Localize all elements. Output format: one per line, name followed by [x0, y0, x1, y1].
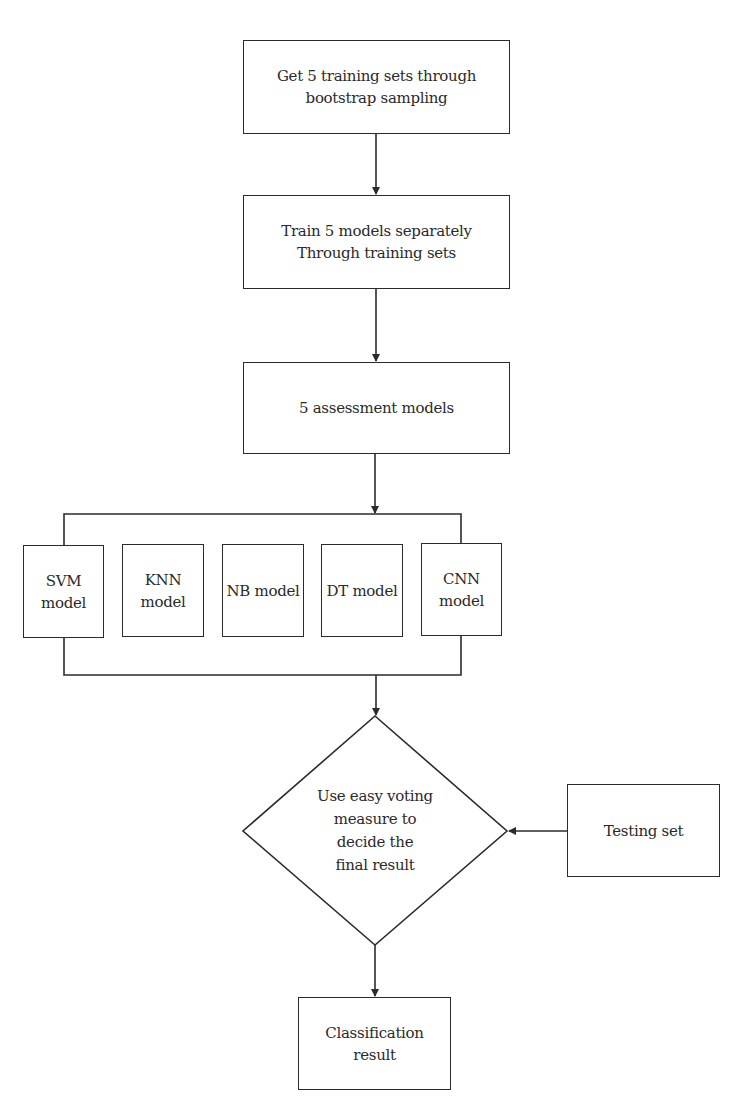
voting-line-3: decide the: [337, 831, 414, 854]
train-models-box: Train 5 models separately Through traini…: [243, 195, 510, 289]
assessment-label: 5 assessment models: [299, 397, 454, 419]
svm-model-label: SVM model: [24, 570, 103, 614]
cnn-model-box: CNN model: [421, 543, 502, 636]
bottom-bus-line: [64, 636, 461, 675]
nb-model-label: NB model: [226, 580, 299, 602]
bootstrap-line-2: bootstrap sampling: [306, 87, 448, 109]
train-line-2: Through training sets: [297, 242, 456, 264]
bootstrap-sampling-box: Get 5 training sets through bootstrap sa…: [243, 40, 510, 134]
top-bus-line: [64, 514, 461, 545]
dt-model-label: DT model: [327, 580, 398, 602]
classification-result-box: Classification result: [298, 997, 451, 1090]
nb-model-box: NB model: [222, 544, 304, 637]
knn-model-box: KNN model: [122, 544, 204, 637]
voting-line-2: measure to: [334, 808, 416, 831]
svm-model-box: SVM model: [23, 545, 104, 638]
result-line-2: result: [353, 1044, 395, 1066]
result-line-1: Classification: [325, 1022, 423, 1044]
bootstrap-line-1: Get 5 training sets through: [277, 65, 476, 87]
testing-set-label: Testing set: [604, 820, 684, 842]
dt-model-box: DT model: [321, 544, 403, 637]
voting-decision-label: Use easy voting measure to decide the fi…: [290, 776, 460, 886]
train-line-1: Train 5 models separately: [281, 220, 472, 242]
voting-line-1: Use easy voting: [317, 785, 433, 808]
knn-model-label: KNN model: [123, 569, 203, 613]
assessment-models-box: 5 assessment models: [243, 362, 510, 454]
testing-set-box: Testing set: [567, 784, 720, 877]
voting-line-4: final result: [335, 854, 414, 877]
cnn-model-label: CNN model: [422, 568, 501, 612]
